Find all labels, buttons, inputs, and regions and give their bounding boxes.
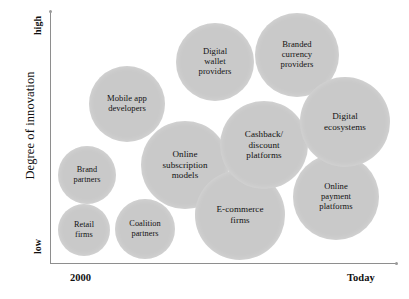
bubble[interactable]: Retail firms: [58, 204, 110, 256]
bubble-label: Digital ecosystems: [319, 111, 371, 132]
bubble[interactable]: Mobile app developers: [89, 66, 165, 142]
bubble[interactable]: Cashback/ discount platforms: [220, 101, 308, 189]
bubble-label: Brand partners: [68, 165, 105, 184]
bubble-label: Cashback/ discount platforms: [240, 129, 288, 161]
bubble-label: Branded currency providers: [276, 40, 319, 70]
bubble-label: Retail firms: [69, 220, 99, 239]
bubble-label: Coalition partners: [124, 219, 165, 238]
bubble[interactable]: Brand partners: [58, 146, 116, 204]
y-axis-label-low: low: [32, 234, 43, 260]
x-axis-line: [50, 263, 397, 264]
x-axis-arrow-cap: [395, 262, 398, 265]
x-axis-label-start: 2000: [70, 272, 91, 283]
bubble[interactable]: Online payment platforms: [293, 154, 379, 240]
bubble[interactable]: Digital wallet providers: [176, 23, 254, 101]
y-axis-title: Degree of innovation: [23, 41, 38, 211]
y-axis-line: [50, 12, 51, 263]
bubble-label: Online payment platforms: [314, 182, 357, 212]
bubble-label: Online subscription models: [157, 149, 212, 181]
bubble[interactable]: Coalition partners: [115, 199, 175, 259]
bubble-label: E-commerce firms: [212, 204, 269, 225]
x-axis-label-end: Today: [347, 272, 375, 283]
bubble-label: Mobile app developers: [102, 94, 152, 114]
bubble-label: Digital wallet providers: [194, 47, 237, 77]
bubble[interactable]: Digital ecosystems: [300, 77, 390, 167]
y-axis-arrow-cap: [49, 10, 52, 13]
bubble-chart: Degree of innovation high low 2000 Today…: [0, 0, 409, 299]
y-axis-label-high: high: [32, 11, 43, 41]
